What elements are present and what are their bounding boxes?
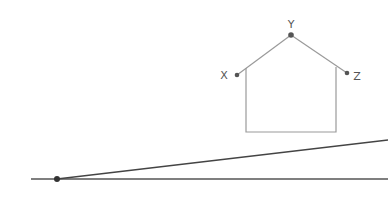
point-z	[345, 71, 350, 76]
point-x	[235, 73, 240, 78]
roof-right-edge	[291, 35, 347, 73]
label-z: Z	[353, 70, 361, 83]
point-y	[288, 32, 294, 38]
origin-point	[54, 176, 60, 182]
label-y: Y	[287, 18, 295, 31]
slanted-line	[57, 140, 388, 179]
roof-left-edge	[237, 35, 291, 75]
diagram-canvas: X Y Z	[0, 0, 388, 199]
house-shape	[237, 35, 347, 132]
house-walls	[246, 67, 336, 132]
label-x: X	[220, 69, 228, 82]
